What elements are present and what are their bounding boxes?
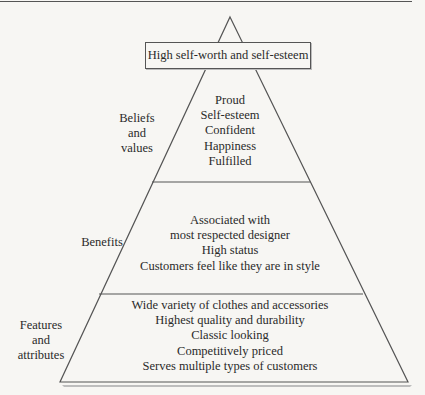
side-label-line: Beliefs (112, 111, 162, 126)
apex-label: High self-worth and self-esteem (148, 48, 309, 63)
apex-label-box: High self-worth and self-esteem (145, 42, 311, 69)
side-label-line: values (112, 141, 162, 156)
item: Wide variety of clothes and accessories (115, 298, 345, 313)
item: Happiness (180, 139, 280, 154)
side-label-line: Benefits (72, 235, 132, 250)
item: Associated with (130, 213, 330, 228)
side-label-line: and (112, 126, 162, 141)
item: most respected designer (130, 228, 330, 243)
item: Confident (180, 123, 280, 138)
item: Competitively priced (115, 344, 345, 359)
item: Self-esteem (180, 108, 280, 123)
item: High status (130, 243, 330, 258)
item: Classic looking (115, 328, 345, 343)
side-label-line: attributes (12, 348, 70, 363)
item: Serves multiple types of customers (115, 359, 345, 374)
side-label-line: and (12, 333, 70, 348)
item: Customers feel like they are in style (130, 259, 330, 274)
item: Proud (180, 93, 280, 108)
level-2-items: Associated with most respected designer … (130, 213, 330, 274)
item: Highest quality and durability (115, 313, 345, 328)
side-label-line: Features (12, 318, 70, 333)
level-3-side-label: Features and attributes (12, 318, 70, 364)
item: Fulfilled (180, 154, 280, 169)
level-1-side-label: Beliefs and values (112, 111, 162, 157)
level-1-items: Proud Self-esteem Confident Happiness Fu… (180, 93, 280, 169)
level-3-items: Wide variety of clothes and accessories … (115, 298, 345, 374)
level-2-side-label: Benefits (72, 235, 132, 250)
